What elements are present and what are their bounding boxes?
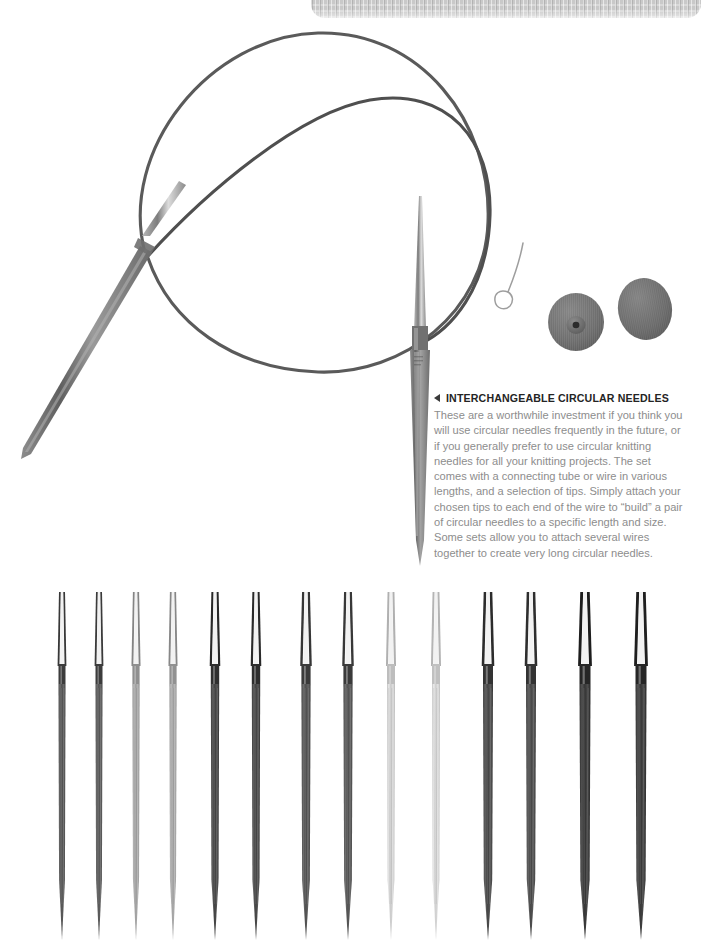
needle-tip — [342, 592, 354, 940]
needle-tip — [578, 592, 592, 940]
cable-key-wire-tool — [495, 243, 523, 309]
needle-tip — [251, 592, 262, 940]
left-triangle-icon — [434, 394, 440, 402]
needle-tip — [386, 592, 396, 940]
caption-heading-text: INTERCHANGEABLE CIRCULAR NEEDLES — [446, 392, 669, 404]
cable-loop-back — [140, 33, 488, 372]
needle-tip — [300, 592, 312, 940]
needle-tip — [210, 592, 221, 940]
needle-tip — [95, 592, 104, 940]
caption-heading: INTERCHANGEABLE CIRCULAR NEEDLES — [434, 392, 684, 404]
caption-body-text: These are a worthwhile investment if you… — [434, 408, 684, 561]
page-root: INTERCHANGEABLE CIRCULAR NEEDLES These a… — [0, 0, 701, 948]
needle-tip — [634, 592, 648, 940]
end-cap-disc-plain — [613, 274, 677, 344]
needle-tip-left — [21, 181, 186, 459]
needle-tip-right — [410, 196, 430, 566]
needle-tip — [482, 592, 495, 940]
interchangeable-needle-tips-row — [0, 588, 701, 948]
needle-tip — [168, 592, 177, 940]
needle-tip — [525, 592, 538, 940]
needle-tip — [431, 592, 441, 940]
cable-loop-front — [148, 98, 490, 344]
caption-block: INTERCHANGEABLE CIRCULAR NEEDLES These a… — [434, 392, 684, 561]
needle-tip — [58, 592, 67, 940]
needle-tip — [131, 592, 140, 940]
end-cap-disc-with-hub — [548, 293, 604, 351]
